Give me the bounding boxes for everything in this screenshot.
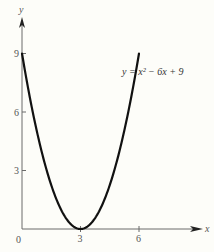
x-tick-label-6: 6 [136, 233, 141, 244]
y-axis-label: y [18, 4, 24, 15]
origin-label: 0 [16, 234, 21, 245]
y-tick-label-6: 6 [14, 107, 19, 118]
x-axis-label: x [204, 223, 210, 234]
equation-label: y = x² − 6x + 9 [121, 66, 184, 77]
y-tick-label-9: 9 [14, 48, 19, 59]
y-tick-label-3: 3 [14, 165, 19, 176]
parabola-curve [22, 54, 139, 230]
parabola-chart: y x 0 3 6 3 6 9 y = x² − 6x + 9 [0, 0, 214, 252]
x-tick-label-3: 3 [78, 233, 83, 244]
